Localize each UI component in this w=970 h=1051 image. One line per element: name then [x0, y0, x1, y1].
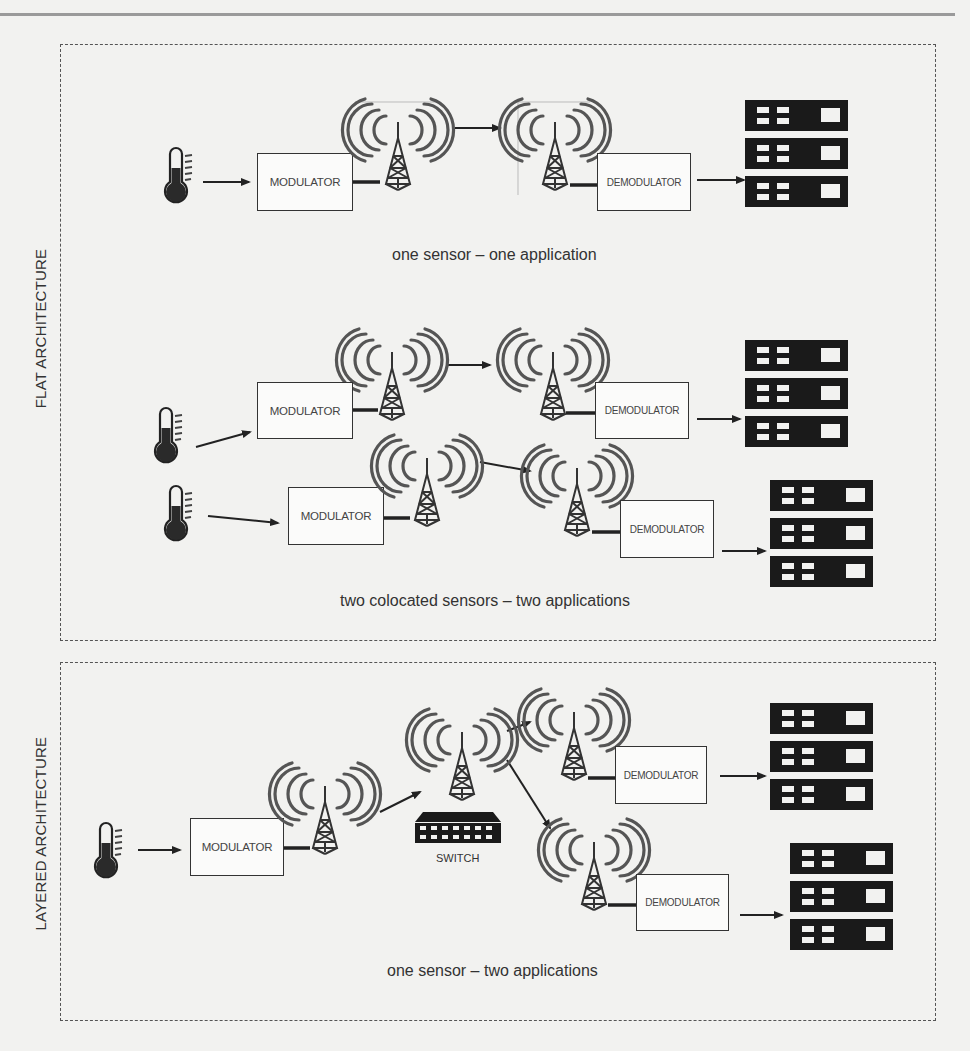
radio-tower-icon	[532, 694, 616, 784]
modulator-box: MODULATOR	[190, 818, 284, 876]
scenario-caption: one sensor – two applications	[387, 962, 598, 980]
demodulator-box: DEMODULATOR	[636, 874, 729, 931]
radio-tower-icon	[420, 714, 504, 804]
network-switch-icon	[415, 812, 501, 844]
server-rack-icon	[770, 703, 873, 811]
demodulator-box: DEMODULATOR	[615, 746, 707, 804]
radio-tower-icon	[552, 824, 636, 914]
radio-tower-icon	[283, 768, 367, 858]
thermometer-icon	[88, 825, 128, 885]
switch-label: SWITCH	[436, 852, 479, 864]
server-rack-icon	[790, 843, 893, 951]
